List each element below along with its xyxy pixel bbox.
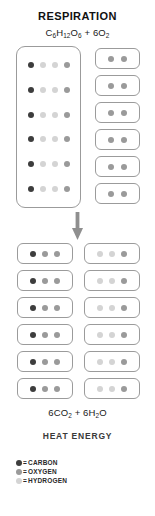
oxygen-atom [64, 161, 70, 167]
hydrogen-atom [109, 386, 115, 392]
oxygen-atom [121, 386, 127, 392]
legend-label: CARBON [28, 459, 58, 466]
atom-row [17, 161, 80, 167]
oxygen-atom [108, 83, 114, 89]
hydrogen-atom [40, 136, 46, 142]
hydrogen-atom [52, 62, 58, 68]
hydrogen-atom [40, 186, 46, 192]
oxygen-formula: 6O2 [93, 27, 110, 38]
oxygen-atom [121, 332, 127, 338]
hydrogen-atom [40, 161, 46, 167]
hydrogen-atom [40, 112, 46, 118]
carbon-atom [28, 62, 34, 68]
footer-artifact [10, 504, 145, 511]
legend-label: HYDROGEN [28, 477, 67, 484]
oxygen-atom [121, 305, 127, 311]
hydrogen-atom [97, 251, 103, 257]
hydrogen-atom [40, 87, 46, 93]
water-molecule [84, 297, 140, 318]
oxygen-atom [121, 83, 127, 89]
oxygen-atom [121, 359, 127, 365]
water-molecule [84, 243, 140, 264]
atom-row [18, 332, 72, 338]
water-molecule [84, 324, 140, 345]
carbon-dioxide-molecule [17, 378, 73, 399]
oxygen-atom [42, 386, 48, 392]
arrow-down-icon [72, 212, 83, 240]
hydrogen-atom [52, 112, 58, 118]
oxygen-atom [42, 251, 48, 257]
water-molecule [84, 270, 140, 291]
carbon-swatch-icon [16, 460, 22, 466]
oxygen-atom [108, 110, 114, 116]
atom-row [96, 110, 139, 116]
oxygen-atom [108, 191, 114, 197]
carbon-atom [28, 161, 34, 167]
oxygen-atom [64, 62, 70, 68]
hydrogen-atom [109, 278, 115, 284]
atom-row [96, 83, 139, 89]
carbon-dioxide-molecule [17, 324, 73, 345]
atom-row [17, 186, 80, 192]
oxygen-atom [42, 332, 48, 338]
oxygen-atom [64, 136, 70, 142]
oxygen-swatch-icon [16, 469, 22, 475]
oxygen-atom [108, 164, 114, 170]
legend-equals: = [23, 468, 27, 475]
carbon-dioxide-molecule [17, 351, 73, 372]
oxygen-molecule [95, 129, 140, 150]
hydrogen-atom [97, 332, 103, 338]
oxygen-atom [42, 305, 48, 311]
carbon-atom [30, 386, 36, 392]
atom-row [85, 278, 139, 284]
oxygen-atom [121, 137, 127, 143]
carbon-atom [30, 359, 36, 365]
plus-sign-products: + [75, 407, 81, 418]
oxygen-atom [108, 137, 114, 143]
oxygen-atom [54, 278, 60, 284]
products-formula: 6CO2 + 6H2O [0, 407, 155, 418]
hydrogen-atom [52, 186, 58, 192]
oxygen-molecule [95, 102, 140, 123]
hydrogen-atom [52, 87, 58, 93]
oxygen-atom [64, 112, 70, 118]
glucose-formula: C6H12O6 [46, 27, 82, 38]
atom-row [17, 112, 80, 118]
oxygen-atom [42, 278, 48, 284]
oxygen-atom [121, 191, 127, 197]
oxygen-atom [54, 305, 60, 311]
page-title: RESPIRATION [0, 10, 155, 22]
carbon-atom [28, 186, 34, 192]
legend-label: OXYGEN [28, 468, 57, 475]
legend-equals: = [23, 477, 27, 484]
atom-row [96, 137, 139, 143]
hydrogen-atom [109, 251, 115, 257]
hydrogen-atom [40, 62, 46, 68]
atom-row [18, 386, 72, 392]
glucose-molecule [16, 46, 81, 208]
atom-row [85, 332, 139, 338]
carbon-atom [30, 305, 36, 311]
hydrogen-atom [109, 359, 115, 365]
carbon-atom [30, 278, 36, 284]
legend-item-oxygen: =OXYGEN [16, 468, 67, 475]
atom-row [17, 87, 80, 93]
oxygen-atom [64, 186, 70, 192]
plus-sign-reactants: + [85, 27, 91, 38]
hydrogen-atom [97, 359, 103, 365]
hydrogen-atom [109, 332, 115, 338]
oxygen-atom [121, 164, 127, 170]
carbon-atom [30, 332, 36, 338]
legend-item-hydrogen: =HYDROGEN [16, 477, 67, 484]
oxygen-atom [121, 278, 127, 284]
hydrogen-atom [97, 386, 103, 392]
atom-row [18, 251, 72, 257]
water-molecule [84, 378, 140, 399]
hydrogen-swatch-icon [16, 478, 22, 484]
oxygen-atom [108, 56, 114, 62]
atom-row [85, 305, 139, 311]
hydrogen-atom [52, 161, 58, 167]
atom-row [18, 359, 72, 365]
oxygen-molecule [95, 75, 140, 96]
legend: =CARBON=OXYGEN=HYDROGEN [16, 459, 67, 484]
